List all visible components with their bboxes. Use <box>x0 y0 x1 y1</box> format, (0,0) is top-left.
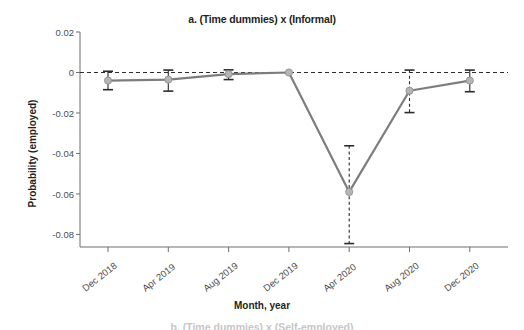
data-point <box>225 71 232 78</box>
axes-layer <box>76 32 508 252</box>
x-axis-title: Month, year <box>0 300 524 311</box>
plot-canvas <box>0 0 524 330</box>
chart-title: a. (Time dummies) x (Informal) <box>0 13 524 25</box>
figure-panel-a: a. (Time dummies) x (Informal) Probabili… <box>0 0 524 330</box>
y-tick-label: 0.02 <box>20 27 74 38</box>
data-point <box>406 87 413 94</box>
next-panel-title-partial: b. (Time dummies) x (Self-employed) <box>0 321 524 330</box>
y-tick-label: -0.06 <box>20 188 74 199</box>
data-point <box>285 69 292 76</box>
data-point <box>165 76 172 83</box>
data-point-group <box>104 69 473 196</box>
y-tick-label: -0.08 <box>20 229 74 240</box>
series-line <box>108 72 470 191</box>
error-bar-group <box>103 70 475 244</box>
y-tick-label: 0 <box>20 67 74 78</box>
data-point <box>466 77 473 84</box>
y-tick-label: -0.02 <box>20 107 74 118</box>
y-tick-label: -0.04 <box>20 148 74 159</box>
data-point <box>346 188 353 195</box>
data-point <box>104 77 111 84</box>
